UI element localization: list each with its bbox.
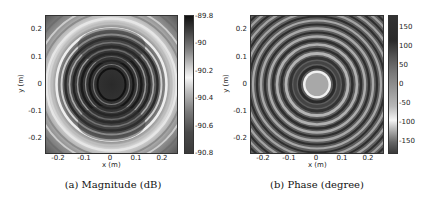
phase-ytick: 0.2 [225, 26, 247, 33]
magnitude-ytick: 0.1 [20, 54, 42, 61]
magnitude-ylabel: y (m) [18, 74, 25, 93]
phase-colorbar-tick: -100 [399, 119, 415, 126]
phase-ylabel: y (m) [223, 74, 230, 93]
phase-caption: (b) Phase (degree) [237, 179, 397, 190]
magnitude-ytick: -0.1 [20, 108, 42, 115]
magnitude-panel: 0.2 0.1 0 -0.1 -0.2 y (m) -0.2 -0.1 0 0.… [0, 0, 220, 204]
magnitude-caption: (a) Magnitude (dB) [33, 179, 193, 190]
magnitude-xtick: -0.2 [46, 155, 70, 162]
magnitude-heatmap [45, 15, 178, 154]
phase-colorbar-tick: 100 [399, 43, 412, 50]
phase-ytick: -0.1 [225, 108, 247, 115]
phase-colorbar-tick: 50 [399, 62, 408, 69]
phase-xtick: 0.2 [356, 155, 380, 162]
phase-heatmap-graphic [251, 16, 383, 153]
phase-xtick: -0.2 [251, 155, 275, 162]
magnitude-colorbar [184, 15, 194, 154]
magnitude-xtick: 0.2 [150, 155, 174, 162]
magnitude-colorbar-tick: -90.2 [195, 68, 213, 75]
phase-colorbar-tick: 0 [399, 81, 403, 88]
magnitude-ytick: -0.2 [20, 135, 42, 142]
phase-colorbar [388, 15, 398, 154]
phase-panel: 0.2 0.1 0 -0.1 -0.2 y (m) -0.2 -0.1 0 0.… [220, 0, 437, 204]
magnitude-xtick: -0.1 [72, 155, 96, 162]
phase-ytick: 0.1 [225, 54, 247, 61]
magnitude-colorbar-tick: -90 [195, 40, 206, 47]
magnitude-ytick: 0.2 [20, 26, 42, 33]
phase-xlabel: x (m) [308, 162, 327, 169]
phase-colorbar-tick: 150 [399, 24, 412, 31]
magnitude-colorbar-tick: -90.4 [195, 95, 213, 102]
magnitude-colorbar-tick: -89.8 [195, 13, 213, 20]
phase-heatmap [250, 15, 384, 154]
phase-xtick: 0.1 [330, 155, 354, 162]
magnitude-colorbar-tick: -90.8 [195, 150, 213, 157]
phase-ytick: -0.2 [225, 135, 247, 142]
phase-colorbar-tick: -150 [399, 138, 415, 145]
magnitude-xlabel: x (m) [102, 162, 121, 169]
phase-xtick: -0.1 [277, 155, 301, 162]
magnitude-colorbar-tick: -90.6 [195, 123, 213, 130]
magnitude-xtick: 0.1 [124, 155, 148, 162]
phase-colorbar-tick: -50 [399, 100, 410, 107]
magnitude-heatmap-graphic [46, 16, 177, 153]
